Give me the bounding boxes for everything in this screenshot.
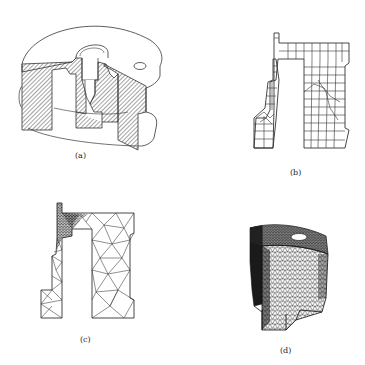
panel-d-caption: (d) — [280, 346, 291, 355]
panel-d-3d-mesh — [250, 225, 328, 330]
panel-a-cad-model — [19, 26, 162, 150]
figure-canvas: (a) — [0, 0, 365, 365]
panel-c-caption: (c) — [80, 335, 91, 344]
panel-b-quad-mesh — [254, 33, 349, 148]
panel-c-tri-mesh — [41, 203, 134, 318]
panel-a-caption: (a) — [75, 151, 86, 160]
panel-b-caption: (b) — [290, 168, 301, 177]
